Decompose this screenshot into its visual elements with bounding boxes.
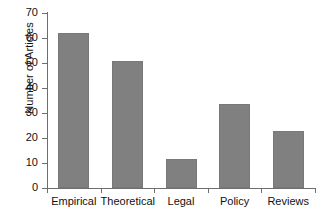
y-axis-tick: 40 <box>42 88 47 89</box>
x-axis-category-label: Legal <box>154 195 208 208</box>
x-axis-tick <box>208 188 209 193</box>
y-axis-tick: 60 <box>42 38 47 39</box>
bar-chart: Number of Articles 010203040506070 Empir… <box>0 0 325 223</box>
y-axis-tick: 50 <box>42 63 47 64</box>
x-axis-tick-origin <box>47 188 48 193</box>
x-axis-category-label: Policy <box>208 195 262 208</box>
bar <box>166 159 197 188</box>
x-axis-tick <box>315 188 316 193</box>
y-axis-tick: 30 <box>42 113 47 114</box>
y-axis-tick-label: 30 <box>26 106 38 119</box>
bar <box>58 33 89 188</box>
x-axis-tick <box>154 188 155 193</box>
plot-area: 010203040506070 <box>47 13 315 188</box>
x-axis-tick <box>101 188 102 193</box>
bar <box>112 61 143 189</box>
y-axis-tick-label: 10 <box>26 156 38 169</box>
bar <box>219 104 250 188</box>
x-axis-category-label: Theoretical <box>101 195 155 208</box>
y-axis-tick: 70 <box>42 13 47 14</box>
x-axis-category-label: Reviews <box>261 195 315 208</box>
y-axis-tick-label: 40 <box>26 81 38 94</box>
x-axis-category-label: Empirical <box>47 195 101 208</box>
y-axis-tick-label: 0 <box>32 181 38 194</box>
y-axis-tick-label: 50 <box>26 56 38 69</box>
y-axis-tick-label: 20 <box>26 131 38 144</box>
x-axis-line <box>47 188 315 189</box>
x-axis-tick <box>261 188 262 193</box>
y-axis-tick: 20 <box>42 138 47 139</box>
y-axis-title: Number of Articles <box>23 0 35 148</box>
y-axis-tick-label: 60 <box>26 31 38 44</box>
y-axis-tick-label: 70 <box>26 6 38 19</box>
y-axis-tick: 10 <box>42 163 47 164</box>
bar <box>273 131 304 189</box>
